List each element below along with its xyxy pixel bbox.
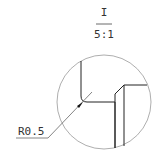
left-profile (81, 61, 115, 148)
detail-view-drawing: I 5:1 R0.5 (0, 0, 162, 158)
step-profile (115, 85, 147, 94)
scale-label: 5:1 (94, 28, 114, 41)
view-id-label: I (101, 6, 108, 19)
radius-dimension: R0.5 (18, 125, 45, 138)
